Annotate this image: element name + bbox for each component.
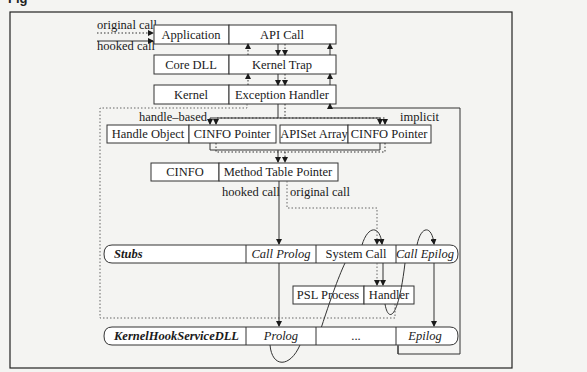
box-system-call: System Call (326, 247, 387, 261)
loop-call-epilog (417, 230, 434, 245)
architecture-diagram: original call hooked call Application AP… (0, 0, 587, 372)
box-cinfo: CINFO (166, 165, 204, 179)
box-apiset-array: APISet Array (280, 127, 348, 141)
box-application-row: Application API Call (154, 25, 336, 44)
box-cinfo-pointer-2: CINFO Pointer (351, 127, 429, 141)
box-stubs: Stubs (114, 247, 143, 261)
box-handle-cinfo-row: Handle Object CINFO Pointer APISet Array… (107, 125, 431, 143)
box-application: Application (161, 28, 221, 42)
box-cinfo-row: CINFO Method Table Pointer (151, 163, 338, 181)
box-call-epilog: Call Epilog (396, 247, 454, 261)
box-kernel-trap: Kernel Trap (252, 58, 312, 72)
box-prolog: Prolog (263, 329, 298, 343)
box-call-prolog: Call Prolog (252, 247, 311, 261)
label-original-call-mid: original call (290, 185, 351, 199)
box-handle-object: Handle Object (112, 127, 185, 141)
box-core-dll: Core DLL (165, 58, 217, 72)
box-kernel: Kernel (174, 88, 209, 102)
label-handle-based: handle–based (139, 110, 208, 124)
label-original-call-top: original call (97, 18, 158, 32)
box-core-dll-row: Core DLL Kernel Trap (154, 55, 336, 74)
label-hooked-call-mid: hooked call (222, 185, 280, 199)
box-epilog: Epilog (407, 329, 441, 343)
box-kernel-row: Kernel Exception Handler (154, 85, 336, 104)
dispatch-lines (210, 104, 385, 124)
box-api-call: API Call (260, 28, 305, 42)
stubs-row: Stubs Call Prolog System Call Call Epilo… (104, 245, 458, 263)
box-kernel-hook-service-dll: KernelHookServiceDLL (113, 329, 239, 343)
box-exception-handler: Exception Handler (235, 88, 330, 102)
box-method-table-pointer: Method Table Pointer (224, 165, 333, 179)
box-cinfo-pointer-1: CINFO Pointer (194, 127, 272, 141)
box-handler: Handler (369, 288, 410, 302)
label-implicit: implicit (400, 110, 439, 124)
khs-row: KernelHookServiceDLL Prolog ... Epilog (104, 327, 458, 345)
box-psl-process: PSL Process (297, 288, 360, 302)
psl-row: PSL Process Handler (293, 286, 414, 304)
loop-system-call (362, 230, 382, 245)
box-ellipsis: ... (351, 329, 360, 343)
label-hooked-call-top: hooked call (97, 39, 155, 53)
merge-lines (210, 143, 385, 162)
loop-prolog (270, 345, 300, 362)
